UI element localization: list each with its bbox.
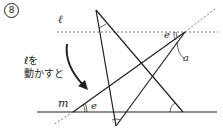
segment-top-bottom: [96, 10, 116, 126]
problem-number: 8: [4, 3, 19, 18]
label-angle-a: a: [183, 53, 189, 63]
extension-lower: [53, 112, 73, 125]
segment-top-right: [96, 10, 183, 112]
angle-arc-e-bottom: [83, 105, 85, 112]
angle-arc-top: [99, 24, 106, 28]
caption-line-1: ℓを: [24, 56, 38, 66]
angle-arc-right: [170, 103, 176, 112]
label-angle-e-top: e: [164, 30, 170, 40]
curved-arrow: [67, 44, 84, 86]
label-line-m: m: [58, 98, 68, 109]
geometry-diagram: [0, 0, 223, 133]
extension-upper: [185, 9, 215, 32]
transversal-line: [73, 32, 185, 112]
label-angle-e-bottom: e: [91, 101, 97, 111]
caption-line-2: 動かすと: [24, 69, 64, 79]
label-line-l: ℓ: [58, 14, 63, 25]
angle-arc-bottom: [112, 119, 121, 120]
